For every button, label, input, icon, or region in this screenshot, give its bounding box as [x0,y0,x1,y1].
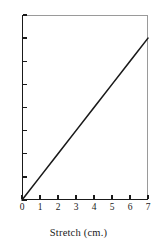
series-line-load-vs-stretch [22,15,148,200]
x-axis-tick-label: 5 [105,203,119,213]
x-axis-tick-label: 1 [33,203,47,213]
x-axis-tick-label: 2 [51,203,65,213]
x-axis-tick-label: 6 [123,203,137,213]
x-axis-tick-label: 7 [141,203,155,213]
x-axis-caption: Stretch (cm.) [0,227,157,239]
plot-area [22,15,148,200]
series-polyline [22,38,148,200]
x-axis-tick-label: 3 [69,203,83,213]
x-axis-tick-label: 0 [15,203,29,213]
x-axis-tick-label: 4 [87,203,101,213]
chart-figure: 012345678 01234567 Stretch (cm.) [0,0,157,245]
